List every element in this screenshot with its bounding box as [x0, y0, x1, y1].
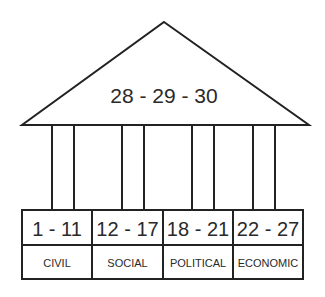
range-label: 22 - 27 [237, 218, 299, 240]
roof-label: 28 - 29 - 30 [110, 84, 217, 107]
category-label: SOCIAL [107, 257, 147, 269]
range-label: 18 - 21 [167, 218, 229, 240]
pillar-3 [192, 125, 214, 210]
roof: 28 - 29 - 30 [22, 22, 309, 125]
pillar-4 [253, 125, 275, 210]
pillars [52, 125, 275, 210]
range-label: 12 - 17 [96, 218, 158, 240]
pillar-2 [122, 125, 144, 210]
pillar-1 [52, 125, 74, 210]
temple-diagram: 28 - 29 - 30 1 - 11 CIVIL 12 - 17 SOCIAL… [0, 0, 325, 297]
category-label: POLITICAL [170, 257, 226, 269]
category-label: CIVIL [43, 257, 71, 269]
category-label: ECONOMIC [238, 257, 299, 269]
range-label: 1 - 11 [32, 218, 82, 240]
